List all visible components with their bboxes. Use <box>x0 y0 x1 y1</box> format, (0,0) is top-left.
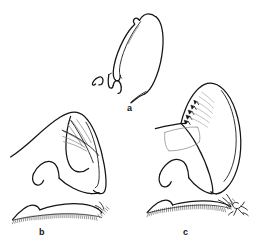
figure-plate: .ink { fill: none; stroke: #141414; stro… <box>0 0 264 242</box>
panel-label-b: b <box>39 228 45 237</box>
panel-a-drawing <box>92 14 163 103</box>
plate-drawing: .ink { fill: none; stroke: #141414; stro… <box>0 0 264 242</box>
hair-fringe-b <box>12 207 109 224</box>
membranous-flap-c <box>165 127 200 151</box>
panel-c-drawing <box>147 83 241 217</box>
panel-label-c: c <box>183 228 188 237</box>
panel-label-a: a <box>127 104 132 113</box>
serrate-teeth-c <box>184 100 197 124</box>
striae-c <box>190 92 214 127</box>
panel-b-drawing <box>11 112 109 224</box>
